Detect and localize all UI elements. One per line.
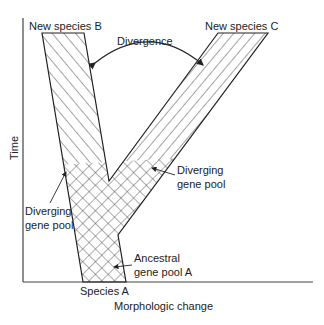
label-species-b: New species B bbox=[29, 20, 102, 32]
speciation-diagram: New species B New species C Divergence D… bbox=[0, 0, 324, 325]
label-divergence: Divergence bbox=[117, 35, 173, 47]
label-diverging-left-2: gene pool bbox=[25, 219, 73, 231]
x-axis-label: Morphologic change bbox=[114, 300, 213, 312]
label-species-c: New species C bbox=[205, 20, 278, 32]
label-diverging-right-1: Diverging bbox=[177, 164, 223, 176]
pointer-diverging-left bbox=[50, 172, 66, 203]
label-ancestral-1: Ancestral bbox=[134, 252, 180, 264]
label-ancestral-2: gene pool A bbox=[134, 266, 193, 278]
label-species-a: Species A bbox=[80, 285, 130, 297]
label-diverging-left-1: Diverging bbox=[25, 205, 71, 217]
y-axis-label: Time bbox=[8, 136, 20, 160]
label-diverging-right-2: gene pool bbox=[177, 178, 225, 190]
